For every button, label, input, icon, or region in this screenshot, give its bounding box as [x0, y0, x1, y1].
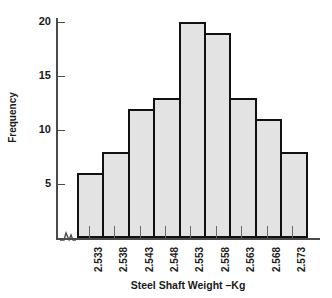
histogram-figure: 2015105 Frequency 2.5332.5382.5432.5482.…	[0, 0, 332, 298]
x-axis-tick	[241, 226, 242, 238]
x-axis-tick	[165, 226, 166, 238]
histogram-bar	[77, 173, 104, 238]
histogram-bar	[102, 152, 129, 238]
histogram-bar	[229, 98, 256, 238]
x-axis-tick	[267, 226, 268, 238]
histogram-bar	[179, 22, 206, 238]
x-axis-tick	[190, 226, 191, 238]
bars-layer	[0, 0, 332, 298]
histogram-bar	[204, 33, 231, 238]
x-axis-tick	[216, 226, 217, 238]
histogram-bar	[128, 109, 155, 238]
x-axis-tick	[114, 226, 115, 238]
histogram-bar	[255, 119, 282, 238]
x-axis-title: Steel Shaft Weight –Kg	[56, 279, 320, 291]
histogram-bar	[153, 98, 180, 238]
histogram-bar	[280, 152, 307, 238]
x-axis-tick	[140, 226, 141, 238]
x-axis-tick	[292, 226, 293, 238]
x-axis-tick	[89, 226, 90, 238]
axis-break-icon	[60, 231, 76, 241]
